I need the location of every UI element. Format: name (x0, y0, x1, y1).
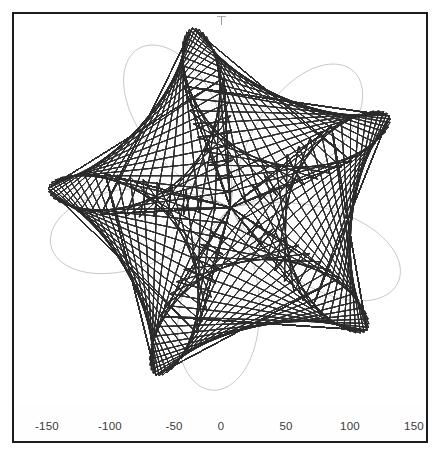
x-axis: -150 -100 -50 0 50 100 150 (14, 405, 426, 441)
curve-start-marker-cap (217, 16, 226, 17)
x-tick-label-6: 150 (404, 420, 424, 432)
x-tick-label-5: 100 (340, 420, 360, 432)
curve-start-marker (221, 16, 222, 25)
x-tick-label-4: 50 (279, 420, 292, 432)
curve-plot-area (14, 14, 426, 405)
figure-canvas: -150 -100 -50 0 50 100 150 (0, 0, 442, 460)
rose-curve-plot (14, 14, 426, 405)
x-tick-label-0: -150 (35, 420, 59, 432)
x-tick-label-2: -50 (165, 420, 182, 432)
x-tick-label-1: -100 (98, 420, 122, 432)
x-tick-label-3: 0 (218, 420, 225, 432)
plot-frame: -150 -100 -50 0 50 100 150 (12, 12, 428, 443)
